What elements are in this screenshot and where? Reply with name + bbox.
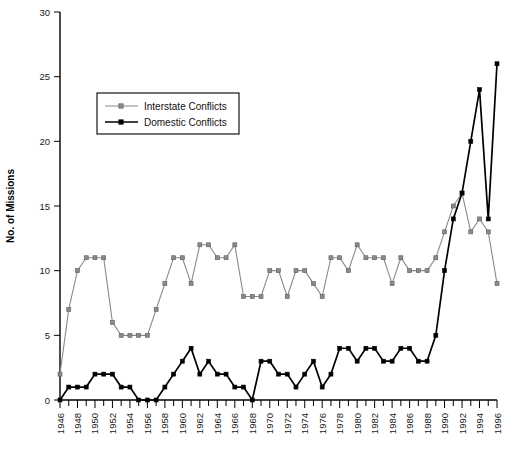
legend-label: Domestic Conflicts <box>144 117 227 128</box>
x-axis-ticks: 1946194819501952195419561958196019621964… <box>55 400 503 434</box>
data-point-marker <box>137 398 141 402</box>
legend-label: Interstate Conflicts <box>144 101 227 112</box>
data-point-marker <box>102 256 106 260</box>
data-point-marker <box>434 333 438 337</box>
y-axis-label: No. of Missions <box>5 169 16 243</box>
data-point-marker <box>373 346 377 350</box>
data-point-marker <box>443 269 447 273</box>
data-point-marker <box>84 385 88 389</box>
data-point-marker <box>268 269 272 273</box>
x-tick-label: 1960 <box>177 413 188 434</box>
data-point-marker <box>425 359 429 363</box>
data-point-marker <box>180 359 184 363</box>
legend-box <box>97 93 239 134</box>
data-point-marker <box>329 256 333 260</box>
data-point-marker <box>145 333 149 337</box>
x-tick-label: 1996 <box>492 413 503 434</box>
data-point-marker <box>93 256 97 260</box>
data-point-marker <box>242 385 246 389</box>
data-point-marker <box>478 88 482 92</box>
x-tick-label: 1978 <box>334 413 345 434</box>
data-point-marker <box>119 385 123 389</box>
data-point-marker <box>303 269 307 273</box>
data-point-marker <box>58 398 62 402</box>
data-point-marker <box>390 282 394 286</box>
data-point-marker <box>381 256 385 260</box>
x-tick-label: 1976 <box>317 413 328 434</box>
data-point-marker <box>486 230 490 234</box>
data-point-marker <box>250 398 254 402</box>
x-tick-label: 1982 <box>369 413 380 434</box>
data-point-marker <box>67 307 71 311</box>
data-point-marker <box>373 256 377 260</box>
data-point-marker <box>277 269 281 273</box>
data-point-marker <box>495 62 499 66</box>
x-tick-label: 1946 <box>55 413 66 434</box>
data-point-marker <box>215 256 219 260</box>
data-point-marker <box>58 372 62 376</box>
legend-marker-swatch <box>119 120 123 124</box>
x-tick-label: 1972 <box>282 413 293 434</box>
data-point-marker <box>207 243 211 247</box>
x-tick-label: 1980 <box>352 413 363 434</box>
chart-container: 051015202530 194619481950195219541956195… <box>0 0 516 454</box>
y-tick-label: 20 <box>39 136 50 147</box>
data-point-marker <box>399 256 403 260</box>
data-point-marker <box>189 346 193 350</box>
data-point-marker <box>311 359 315 363</box>
data-point-marker <box>311 282 315 286</box>
data-point-marker <box>137 333 141 337</box>
data-point-marker <box>102 372 106 376</box>
data-point-marker <box>346 269 350 273</box>
data-point-marker <box>460 191 464 195</box>
x-tick-label: 1958 <box>159 413 170 434</box>
data-point-marker <box>198 243 202 247</box>
y-tick-label: 0 <box>45 395 50 406</box>
x-tick-label: 1986 <box>404 413 415 434</box>
x-tick-label: 1968 <box>247 413 258 434</box>
data-point-marker <box>67 385 71 389</box>
data-point-marker <box>233 385 237 389</box>
data-point-marker <box>285 372 289 376</box>
y-tick-label: 10 <box>39 265 50 276</box>
y-tick-label: 30 <box>39 7 50 18</box>
data-point-marker <box>277 372 281 376</box>
data-point-marker <box>364 256 368 260</box>
data-point-marker <box>242 295 246 299</box>
x-tick-label: 1990 <box>439 413 450 434</box>
chart-legend: Interstate ConflictsDomestic Conflicts <box>97 93 239 134</box>
y-axis-ticks: 051015202530 <box>39 7 60 406</box>
data-point-marker <box>320 295 324 299</box>
y-tick-label: 25 <box>39 71 50 82</box>
data-point-marker <box>294 269 298 273</box>
x-tick-label: 1964 <box>212 413 223 434</box>
data-point-marker <box>154 398 158 402</box>
data-point-marker <box>259 359 263 363</box>
data-point-marker <box>390 359 394 363</box>
x-tick-label: 1984 <box>387 413 398 434</box>
data-point-marker <box>425 269 429 273</box>
x-tick-label: 1952 <box>107 413 118 434</box>
data-point-marker <box>338 346 342 350</box>
x-tick-label: 1950 <box>89 413 100 434</box>
data-point-marker <box>189 282 193 286</box>
data-point-marker <box>128 385 132 389</box>
data-point-marker <box>110 372 114 376</box>
series-interstate-conflicts <box>58 191 499 376</box>
data-point-marker <box>172 372 176 376</box>
data-point-marker <box>364 346 368 350</box>
data-point-marker <box>163 385 167 389</box>
x-tick-label: 1954 <box>124 413 135 434</box>
data-point-marker <box>119 333 123 337</box>
x-tick-label: 1962 <box>194 413 205 434</box>
data-point-marker <box>172 256 176 260</box>
data-point-marker <box>320 385 324 389</box>
data-point-marker <box>443 230 447 234</box>
y-tick-label: 5 <box>45 330 50 341</box>
data-point-marker <box>478 217 482 221</box>
data-point-marker <box>233 243 237 247</box>
data-point-marker <box>84 256 88 260</box>
data-point-marker <box>329 372 333 376</box>
data-point-marker <box>268 359 272 363</box>
data-point-marker <box>110 320 114 324</box>
